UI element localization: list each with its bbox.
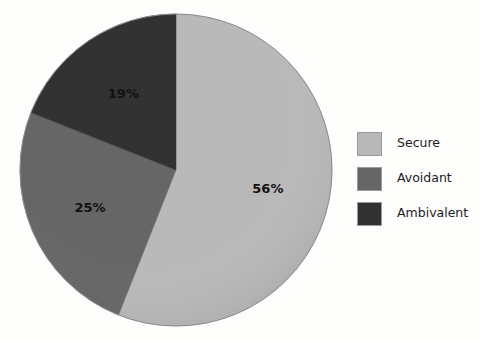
chart-legend: SecureAvoidantAmbivalent xyxy=(357,126,481,231)
legend-item-secure[interactable]: Secure xyxy=(357,126,481,161)
legend-swatch-avoidant xyxy=(357,167,382,191)
legend-swatch-ambivalent xyxy=(357,202,382,226)
pie-label-avoidant: 25% xyxy=(75,200,106,215)
pie-label-ambivalent: 19% xyxy=(108,86,139,101)
legend-label-avoidant: Avoidant xyxy=(397,172,452,185)
pie-chart-plot-area: 56%25%19% xyxy=(19,13,333,327)
pie-chart-figure: 56%25%19% SecureAvoidantAmbivalent xyxy=(0,0,481,341)
legend-label-ambivalent: Ambivalent xyxy=(397,207,468,220)
pie-shading-overlay xyxy=(20,14,332,326)
legend-item-avoidant[interactable]: Avoidant xyxy=(357,161,481,196)
legend-swatch-secure xyxy=(357,132,382,156)
legend-item-ambivalent[interactable]: Ambivalent xyxy=(357,196,481,231)
pie-label-secure: 56% xyxy=(252,181,283,196)
pie-chart-svg: 56%25%19% xyxy=(19,13,333,327)
legend-label-secure: Secure xyxy=(397,137,440,150)
